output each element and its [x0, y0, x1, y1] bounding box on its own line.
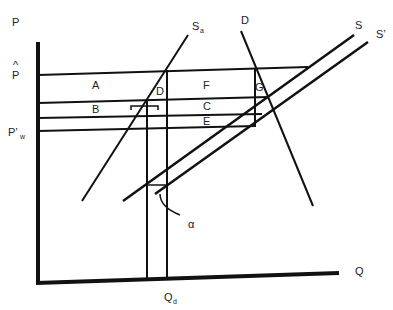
arrow-marker [131, 106, 158, 110]
supply-label: S [355, 19, 362, 31]
price-line-2 [38, 97, 268, 103]
region-e: E [203, 115, 210, 127]
s-a-sub: a [200, 27, 204, 34]
alpha-pointer [160, 194, 180, 215]
region-a: A [92, 79, 100, 91]
y-axis-label: P [12, 16, 19, 28]
supply-shifted-curve [155, 42, 368, 194]
region-c: C [203, 100, 211, 112]
alpha-label: α [188, 218, 195, 230]
q-d-label: Q [164, 291, 173, 303]
p-world-sub: w [19, 133, 26, 140]
region-g: G [255, 81, 264, 93]
p-world-label: P’ [8, 126, 18, 138]
demand-label: D [241, 14, 249, 26]
s-a-label: S [192, 20, 199, 32]
x-axis [36, 273, 339, 283]
p-hat-label: P [12, 69, 19, 81]
supply-shifted-label: S’ [376, 28, 386, 40]
q-d-sub: d [173, 298, 177, 305]
x-axis-label: Q [355, 265, 364, 277]
region-d: D [156, 85, 164, 97]
price-line-3 [38, 114, 262, 118]
region-b: B [92, 103, 99, 115]
region-f: F [203, 79, 210, 91]
diagram-canvas: P Q ^ P P’ w Q d S a D S S’ A B D F C E … [0, 0, 393, 310]
supply-curve [123, 35, 354, 201]
p-hat-line [38, 67, 308, 75]
demand-curve [241, 31, 313, 206]
s-a-curve [82, 35, 188, 201]
